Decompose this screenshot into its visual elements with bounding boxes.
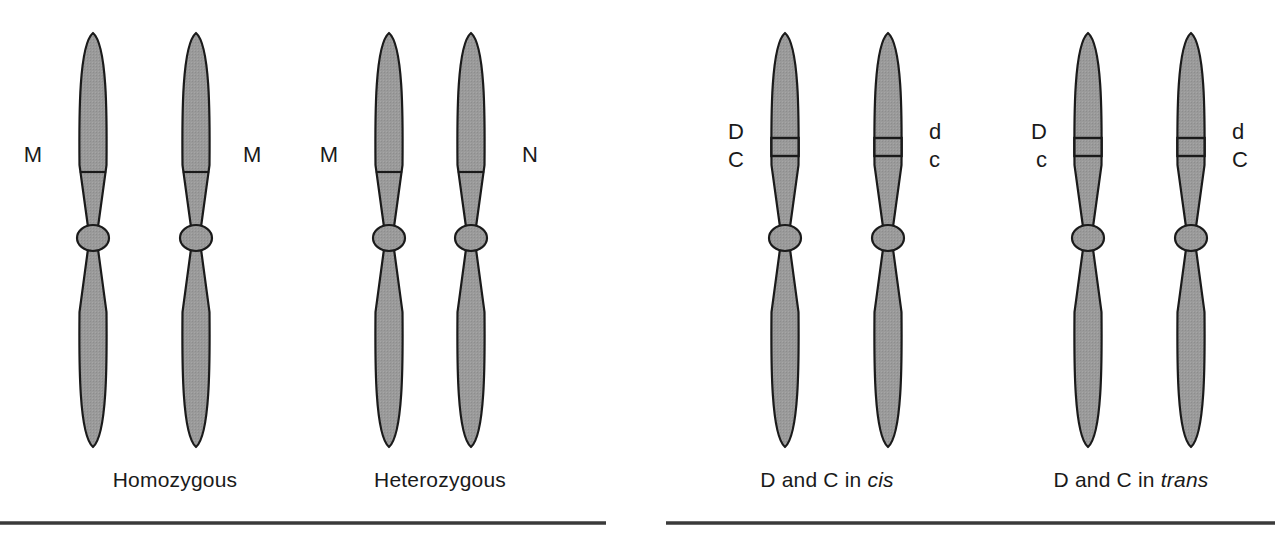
centromere <box>455 225 487 251</box>
allele-label: d <box>1232 119 1244 144</box>
panel-trans: DcdCD and C in trans <box>1031 33 1248 491</box>
chromosome <box>455 33 487 447</box>
chromosome-lower-arm <box>1177 249 1204 447</box>
chromosome-upper-arm <box>375 33 402 227</box>
chromosome-upper-arm <box>771 33 798 227</box>
locus-marker-band <box>771 138 798 156</box>
allele-label: c <box>1036 147 1047 172</box>
allele-label: c <box>929 147 940 172</box>
allele-label: D <box>728 119 744 144</box>
centromere <box>872 225 904 251</box>
centromere <box>180 225 212 251</box>
centromere <box>1175 225 1207 251</box>
panel-caption-emphasis: trans <box>1161 468 1209 491</box>
chromosome <box>180 33 212 447</box>
allele-label: C <box>1232 147 1248 172</box>
chromosome <box>1072 33 1104 447</box>
panel-caption: Homozygous <box>113 468 238 491</box>
chromosome-upper-arm <box>874 33 901 227</box>
allele-label: C <box>728 147 744 172</box>
panel-caption-emphasis: cis <box>868 468 895 491</box>
panels-layer: MMHomozygousMNHeterozygousDCdcD and C in… <box>24 33 1248 491</box>
chromosome-upper-arm <box>79 33 106 227</box>
centromere <box>77 225 109 251</box>
chromosome <box>1175 33 1207 447</box>
chromosome-upper-arm <box>457 33 484 227</box>
locus-marker-band <box>1074 138 1101 156</box>
chromosome-upper-arm <box>182 33 209 227</box>
chromosome-lower-arm <box>874 249 901 447</box>
panel-caption: D and C in trans <box>1054 468 1209 491</box>
chromosome-allele-diagram: MMHomozygousMNHeterozygousDCdcD and C in… <box>0 0 1275 541</box>
locus-marker-band <box>874 138 901 156</box>
panel-cis: DCdcD and C in cis <box>728 33 941 491</box>
chromosome <box>872 33 904 447</box>
chromosome-lower-arm <box>375 249 402 447</box>
diagram-canvas: MMHomozygousMNHeterozygousDCdcD and C in… <box>0 0 1275 541</box>
chromosome-upper-arm <box>1177 33 1204 227</box>
chromosome <box>77 33 109 447</box>
allele-label: d <box>929 119 941 144</box>
allele-label: M <box>243 142 261 167</box>
panel-caption: Heterozygous <box>374 468 506 491</box>
chromosome <box>373 33 405 447</box>
panel-heterozygous: MNHeterozygous <box>320 33 538 491</box>
centromere <box>373 225 405 251</box>
chromosome-lower-arm <box>1074 249 1101 447</box>
allele-label: N <box>522 142 538 167</box>
panel-caption: D and C in cis <box>760 468 894 491</box>
chromosome-upper-arm <box>1074 33 1101 227</box>
chromosome-lower-arm <box>771 249 798 447</box>
panel-homozygous: MMHomozygous <box>24 33 262 491</box>
allele-label: M <box>320 142 338 167</box>
chromosome <box>769 33 801 447</box>
chromosome-lower-arm <box>457 249 484 447</box>
chromosome-lower-arm <box>79 249 106 447</box>
allele-label: D <box>1031 119 1047 144</box>
centromere <box>1072 225 1104 251</box>
allele-label: M <box>24 142 42 167</box>
locus-marker-band <box>1177 138 1204 156</box>
centromere <box>769 225 801 251</box>
chromosome-lower-arm <box>182 249 209 447</box>
